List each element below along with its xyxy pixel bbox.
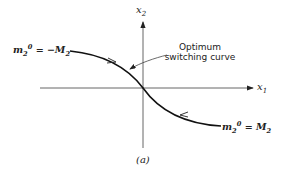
right-curve-label: m20 = M2 (222, 120, 271, 135)
switching-curve (70, 51, 221, 126)
figure-caption: (a) (136, 154, 150, 165)
phase-plane-diagram (0, 0, 285, 173)
x1-axis-label: x1 (257, 81, 267, 95)
annotation-optimum-switching-curve: Optimum switching curve (160, 42, 240, 62)
curve-arrow-lower (180, 112, 188, 117)
left-curve-label: m20 = −M2 (13, 43, 70, 58)
x2-axis-label: x2 (136, 4, 146, 18)
annotation-line-1: Optimum (160, 42, 240, 52)
annotation-line-2: switching curve (160, 52, 240, 62)
